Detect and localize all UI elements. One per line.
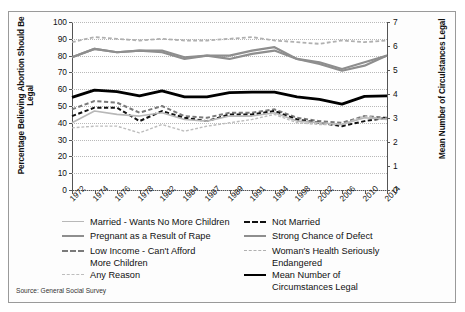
left-tick-label: 20 (41, 151, 67, 161)
chart-figure: Percentage Believing Abortion Should Be … (0, 0, 465, 312)
legend-label-continued: Endangered (272, 257, 419, 269)
right-axis-title: Mean Number of Circulstances Legal (438, 1, 447, 177)
legend-label-continued: More Children (90, 257, 232, 269)
legend-swatch-icon (244, 235, 266, 237)
right-tick-mark (387, 22, 390, 23)
legend-label: Mean Number of (272, 269, 419, 281)
legend-item[interactable]: Low Income - Can't AffordMore Children (62, 245, 232, 269)
series-line (72, 90, 387, 104)
right-tick-mark (387, 166, 390, 167)
legend-column-right: Not MarriedStrong Chance of DefectWoman'… (244, 216, 419, 294)
right-tick-label: 6 (393, 41, 413, 51)
legend-item[interactable]: Pregnant as a Result of Rape (62, 230, 232, 244)
left-tick-label: 70 (41, 67, 67, 77)
legend-label: Strong Chance of Defect (272, 230, 419, 242)
right-tick-label: 1 (393, 161, 413, 171)
legend-item[interactable]: Married - Wants No More Children (62, 216, 232, 230)
right-tick-label: 5 (393, 65, 413, 75)
legend-swatch-icon (62, 235, 84, 237)
right-tick-mark (387, 142, 390, 143)
legend-label: Married - Wants No More Children (90, 216, 232, 228)
source-note: Source: General Social Survey (16, 287, 106, 294)
legend-swatch-icon (244, 221, 266, 223)
legend-swatch-icon (62, 221, 84, 222)
right-tick-mark (387, 70, 390, 71)
legend-swatch-icon (62, 274, 84, 275)
left-axis-title: Percentage Believing Abortion Should Be … (17, 7, 36, 183)
legend-label: Any Reason (90, 269, 232, 281)
left-tick-label: 40 (41, 118, 67, 128)
legend-swatch-icon (62, 250, 84, 252)
legend-label: Not Married (272, 216, 419, 228)
right-tick-label: 4 (393, 89, 413, 99)
legend-label: Woman's Health Seriously (272, 245, 419, 257)
legend-item[interactable]: Any Reason (62, 269, 232, 283)
right-tick-label: 2 (393, 137, 413, 147)
right-tick-mark (387, 94, 390, 95)
left-tick-label: 90 (41, 34, 67, 44)
left-tick-label: 50 (41, 101, 67, 111)
legend-column-left: Married - Wants No More ChildrenPregnant… (62, 216, 232, 284)
legend-swatch-icon (244, 274, 266, 276)
left-tick-label: 100 (41, 17, 67, 27)
left-tick-label: 0 (41, 185, 67, 195)
legend-label: Pregnant as a Result of Rape (90, 230, 232, 242)
legend-item[interactable]: Not Married (244, 216, 419, 230)
legend-item[interactable]: Strong Chance of Defect (244, 230, 419, 244)
legend-label: Low Income - Can't Afford (90, 245, 232, 257)
legend-label-continued: Circumstances Legal (272, 281, 419, 293)
right-tick-label: 7 (393, 17, 413, 27)
series-line (72, 37, 387, 44)
series-lines (72, 22, 387, 191)
left-tick-label: 10 (41, 168, 67, 178)
left-tick-label: 60 (41, 84, 67, 94)
right-tick-mark (387, 46, 390, 47)
left-tick-label: 80 (41, 51, 67, 61)
legend-item[interactable]: Mean Number ofCircumstances Legal (244, 269, 419, 293)
left-tick-label: 30 (41, 135, 67, 145)
legend-swatch-icon (244, 250, 266, 251)
legend-item[interactable]: Woman's Health SeriouslyEndangered (244, 245, 419, 269)
right-tick-mark (387, 118, 390, 119)
right-tick-label: 3 (393, 113, 413, 123)
